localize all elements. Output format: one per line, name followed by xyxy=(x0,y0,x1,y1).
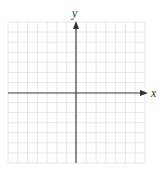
x-axis-label: x xyxy=(150,86,157,100)
coordinate-plane: x y xyxy=(0,0,163,172)
x-axis-arrow-icon xyxy=(140,90,148,96)
y-axis-label: y xyxy=(71,6,78,20)
